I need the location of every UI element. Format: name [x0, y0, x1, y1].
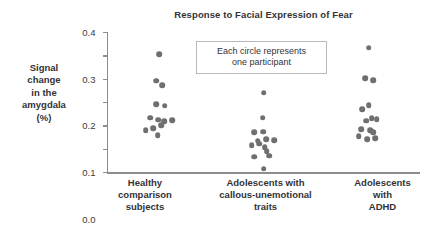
y-tick-mark-5: –0.1	[103, 149, 108, 150]
data-point	[169, 118, 175, 124]
x-axis-line	[107, 172, 420, 174]
data-point	[366, 102, 372, 108]
data-point	[366, 45, 372, 51]
data-point	[374, 116, 380, 122]
data-point	[364, 118, 370, 124]
category-2-line-2: ADHD	[330, 201, 435, 213]
category-0-line-0: Healthy	[90, 177, 200, 189]
data-point	[372, 135, 378, 141]
category-0-line-1: comparison	[90, 189, 200, 201]
data-point	[155, 133, 161, 139]
x-axis-category-0: Healthy comparison subjects	[90, 177, 200, 212]
data-point	[252, 130, 258, 136]
y-tick-mark-3: 0.1	[103, 102, 108, 103]
category-1-line-1: callous-unemotional	[193, 189, 338, 201]
y-axis-label-line-3: in the	[6, 87, 82, 99]
data-point	[162, 103, 168, 109]
data-point	[261, 166, 267, 172]
data-point	[360, 107, 366, 113]
y-axis-label: Signal change in the amygdala (%)	[6, 62, 82, 124]
y-axis-line	[107, 32, 108, 173]
data-point	[266, 153, 272, 159]
data-point	[252, 154, 258, 160]
data-point	[362, 75, 368, 81]
data-point	[371, 130, 377, 136]
data-point	[261, 90, 267, 96]
y-tick-label-0: 0.4	[82, 27, 95, 38]
data-point	[364, 137, 370, 143]
data-point	[263, 137, 269, 143]
data-point	[260, 129, 266, 135]
y-tick-mark-1: 0.3	[103, 55, 108, 56]
y-tick-mark-4: 0.0	[103, 125, 108, 126]
x-axis-category-1: Adolescents with callous-unemotional tra…	[193, 177, 338, 212]
data-point	[271, 137, 277, 143]
note-line-2: one participant	[201, 57, 322, 68]
data-point	[156, 51, 162, 57]
data-point	[358, 126, 364, 132]
y-tick-mark-6: –0.2	[103, 172, 108, 173]
note-line-1: Each circle represents	[201, 46, 322, 57]
y-tick-mark-0: 0.4	[103, 32, 108, 33]
data-point	[159, 82, 165, 88]
category-0-line-2: subjects	[90, 201, 200, 213]
y-tick-mark-2: 0.2	[103, 79, 108, 80]
data-point	[154, 78, 160, 84]
data-point	[147, 115, 153, 121]
data-point	[249, 143, 255, 149]
y-axis-label-line-2: change	[6, 74, 82, 86]
chart-title: Response to Facial Expression of Fear	[107, 9, 420, 20]
y-tick-label-2: 0.2	[82, 120, 95, 131]
data-point	[260, 115, 266, 121]
x-axis-category-2: Adolescents with ADHD	[330, 177, 435, 212]
category-1-line-2: traits	[193, 201, 338, 213]
data-point	[150, 125, 156, 131]
y-tick-label-3: 0.1	[82, 167, 95, 178]
data-point	[154, 102, 160, 108]
data-point	[371, 78, 377, 84]
chart-container: Response to Facial Expression of Fear Si…	[0, 0, 439, 228]
y-axis-label-line-1: Signal	[6, 62, 82, 74]
y-tick-label-1: 0.3	[82, 73, 95, 84]
data-point	[356, 133, 362, 139]
y-axis-label-line-5: (%)	[6, 112, 82, 124]
category-2-line-0: Adolescents	[330, 177, 435, 189]
category-1-line-0: Adolescents with	[193, 177, 338, 189]
each-circle-note: Each circle represents one participant	[196, 41, 327, 74]
y-axis-label-line-4: amygdala	[6, 99, 82, 111]
data-point	[143, 128, 149, 134]
y-tick-label-4: 0.0	[82, 213, 95, 224]
data-point	[159, 123, 165, 129]
category-2-line-1: with	[330, 189, 435, 201]
